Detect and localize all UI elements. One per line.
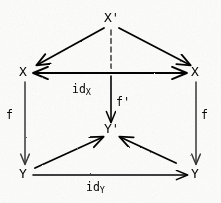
node-y-right: Y bbox=[191, 167, 199, 180]
edge-xprime-to-xleft bbox=[37, 28, 104, 65]
edge-label-f-prime: f' bbox=[116, 96, 130, 109]
prime-mark: ' bbox=[112, 11, 119, 25]
prime-mark: ' bbox=[123, 95, 130, 109]
edge-label-subscript: X bbox=[86, 87, 91, 97]
edge-label-base: id bbox=[86, 180, 100, 194]
node-label-text: Y bbox=[104, 121, 112, 136]
edge-label-subscript: Y bbox=[100, 185, 105, 195]
edge-xprime-to-xright bbox=[119, 28, 190, 65]
node-label-text: X bbox=[104, 10, 112, 25]
edge-label-f-left: f bbox=[6, 110, 13, 122]
node-label-text: X bbox=[19, 64, 27, 79]
edge-label-base: f bbox=[6, 108, 13, 122]
node-y-prime-mid: Y' bbox=[104, 122, 119, 135]
node-x-prime-top: X' bbox=[104, 11, 119, 24]
edge-label-base: id bbox=[72, 82, 86, 96]
edge-label-base: f bbox=[116, 95, 123, 109]
node-label-text: X bbox=[191, 64, 199, 79]
prime-mark: ' bbox=[112, 122, 119, 136]
edge-label-id-y: idY bbox=[86, 182, 105, 195]
edge-label-f-right: f bbox=[201, 110, 208, 122]
node-x-right: X bbox=[191, 65, 199, 78]
edge-yright-to-yprime bbox=[120, 137, 176, 163]
node-label-text: Y bbox=[19, 166, 27, 181]
node-label-text: Y bbox=[191, 166, 199, 181]
edge-label-id-x: idX bbox=[72, 84, 91, 97]
commutative-diagram-canvas: X' X X Y' Y Y idX f' f f idY bbox=[0, 0, 221, 203]
edge-yleft-to-yprime bbox=[35, 137, 103, 168]
node-y-left: Y bbox=[19, 167, 27, 180]
diagram-edges bbox=[0, 0, 221, 203]
edge-label-base: f bbox=[201, 108, 208, 122]
node-x-left: X bbox=[19, 65, 27, 78]
